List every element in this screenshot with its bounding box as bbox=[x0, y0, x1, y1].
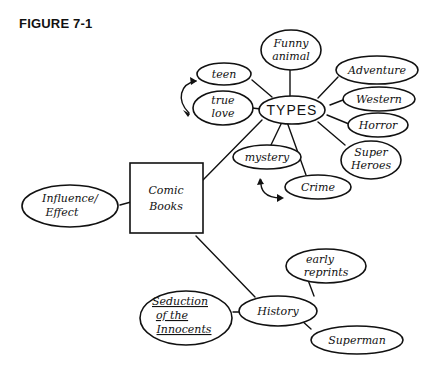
node-western[interactable]: Western bbox=[343, 87, 415, 111]
node-crime[interactable]: Crime bbox=[285, 175, 351, 199]
node-seduction-line2: of the bbox=[156, 309, 189, 322]
connector-central-history bbox=[196, 236, 255, 297]
node-superman[interactable]: Superman bbox=[311, 326, 403, 354]
node-super-heroes-line2: Heroes bbox=[350, 159, 391, 172]
node-seduction-line1: Seduction bbox=[152, 295, 208, 308]
node-types-label: TYPES bbox=[267, 102, 318, 118]
node-horror[interactable]: Horror bbox=[348, 113, 408, 137]
node-types[interactable]: TYPES bbox=[259, 96, 325, 124]
node-early-reprints[interactable]: early reprints bbox=[286, 249, 366, 283]
node-western-label: Western bbox=[356, 93, 402, 106]
node-super-heroes[interactable]: Super Heroes bbox=[341, 141, 401, 179]
node-funny-animal[interactable]: Funny animal bbox=[261, 30, 321, 70]
node-history-label: History bbox=[256, 305, 299, 318]
mind-map-diagram: Comic Books TYPES Funny animal teen true… bbox=[0, 0, 440, 374]
connector-types-teen bbox=[252, 80, 272, 97]
connector-types-adventure bbox=[318, 77, 338, 98]
connector-types-super-heroes bbox=[318, 122, 345, 145]
arrowhead-mystery-icon bbox=[257, 178, 264, 185]
node-comic-books-line2: Books bbox=[148, 200, 183, 213]
node-influence-line1: Influence/ bbox=[41, 192, 99, 205]
node-seduction-line3: Innocents bbox=[156, 323, 212, 336]
node-teen[interactable]: teen bbox=[197, 63, 251, 85]
node-comic-books-line1: Comic bbox=[148, 184, 183, 197]
node-superman-label: Superman bbox=[328, 334, 386, 347]
node-adventure[interactable]: Adventure bbox=[336, 56, 418, 84]
node-early-reprints-line1: early bbox=[306, 253, 335, 266]
node-horror-label: Horror bbox=[358, 119, 398, 132]
arrowhead-teen-icon bbox=[190, 77, 197, 85]
node-mystery-label: mystery bbox=[245, 151, 290, 164]
node-funny-animal-line2: animal bbox=[272, 50, 310, 63]
node-true-love[interactable]: true love bbox=[193, 91, 253, 125]
node-super-heroes-line1: Super bbox=[354, 146, 388, 159]
node-true-love-line2: love bbox=[212, 107, 235, 120]
connector-types-horror bbox=[327, 115, 349, 124]
node-adventure-label: Adventure bbox=[347, 64, 407, 77]
node-comic-books[interactable]: Comic Books bbox=[130, 163, 203, 233]
arrowhead-crime-icon bbox=[277, 194, 284, 202]
connector-types-western bbox=[330, 100, 343, 105]
node-teen-label: teen bbox=[212, 68, 237, 81]
node-seduction-of-the-innocents[interactable]: Seduction of the Innocents bbox=[140, 291, 232, 345]
node-funny-animal-line1: Funny bbox=[272, 37, 309, 50]
node-influence-effect[interactable]: Influence/ Effect bbox=[22, 185, 118, 227]
node-crime-label: Crime bbox=[301, 181, 336, 194]
node-mystery[interactable]: mystery bbox=[233, 145, 301, 169]
node-true-love-line1: true bbox=[211, 94, 235, 107]
node-history[interactable]: History bbox=[239, 296, 317, 326]
node-influence-line2: Effect bbox=[45, 206, 79, 219]
node-early-reprints-line2: reprints bbox=[304, 266, 349, 279]
